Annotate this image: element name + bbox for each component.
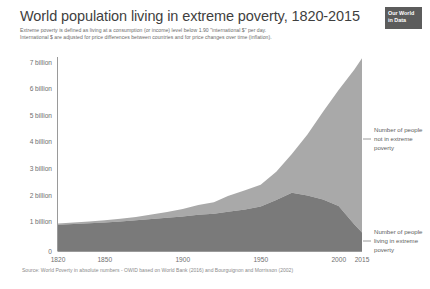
chart-container: World population living in extreme pover… [0,0,430,289]
x-tick-label-2000: 2000 [331,256,346,263]
x-tick-label-2015: 2015 [355,256,370,263]
x-tick-label-1850: 1850 [97,256,112,263]
y-tick-label-4: 4 billion [30,138,53,145]
source-note: Source: World Poverty in absolute number… [22,267,293,273]
y-tick-label-1: 1 billion [30,218,53,225]
y-tick-label-5: 5 billion [30,112,53,119]
legend-bottom-line-2: living in extreme [374,237,419,244]
x-axis-tick-labels: 1820 1850 1900 1950 2000 2015 [51,256,370,263]
plot-area: 7 billion 6 billion 5 billion 4 billion … [0,0,430,289]
legend-top-line-1: Number of people [374,126,423,133]
y-tick-label-7: 7 billion [30,59,53,66]
y-tick-label-2: 2 billion [30,192,53,199]
x-tick-label-1950: 1950 [253,256,268,263]
legend-living-in-extreme-poverty[interactable]: Number of people living in extreme pover… [374,228,423,253]
x-tick-label-1900: 1900 [175,256,190,263]
y-tick-label-3: 3 billion [30,165,53,172]
y-axis-tick-labels: 7 billion 6 billion 5 billion 4 billion … [30,59,53,255]
legend-not-in-extreme-poverty[interactable]: Number of people not in extreme poverty [374,126,423,151]
legend-bottom-line-1: Number of people [374,228,423,235]
legend-top-line-3: poverty [374,144,395,151]
y-tick-label-6: 6 billion [30,85,53,92]
y-tick-label-0: 0 [48,248,52,255]
x-tick-label-1820: 1820 [51,256,66,263]
legend-top-line-2: not in extreme [374,135,413,142]
legend-bottom-line-3: poverty [374,246,395,253]
stacked-area-chart-svg: 7 billion 6 billion 5 billion 4 billion … [0,0,430,289]
